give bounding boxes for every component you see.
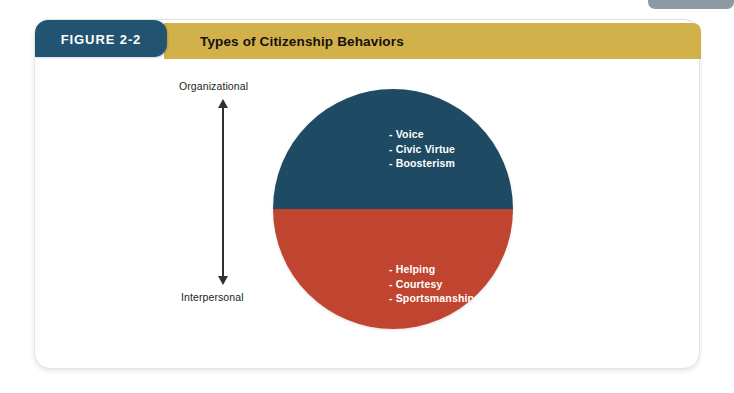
figure-header: Types of Citizenship Behaviors FIGURE 2-… bbox=[35, 20, 699, 60]
figure-title-banner: Types of Citizenship Behaviors bbox=[164, 23, 701, 59]
figure-number-label: FIGURE 2-2 bbox=[35, 31, 167, 46]
axis-label-organizational: Organizational bbox=[179, 80, 248, 92]
figure-card: Types of Citizenship Behaviors FIGURE 2-… bbox=[34, 19, 700, 369]
interpersonal-behaviors-list: - Helping - Courtesy - Sportsmanship bbox=[389, 262, 474, 306]
figure-title: Types of Citizenship Behaviors bbox=[200, 34, 404, 49]
organizational-interpersonal-axis bbox=[222, 99, 224, 285]
axis-line bbox=[222, 106, 224, 278]
figure-body: Organizational Interpersonal - Voice - C… bbox=[35, 60, 699, 368]
list-item: - Voice bbox=[389, 127, 455, 142]
arrow-down-icon bbox=[218, 276, 228, 285]
citizenship-behaviors-circle: - Voice - Civic Virtue - Boosterism - He… bbox=[273, 89, 513, 329]
axis-label-interpersonal: Interpersonal bbox=[181, 291, 244, 303]
figure-number-tab: FIGURE 2-2 bbox=[35, 20, 167, 57]
list-item: - Boosterism bbox=[389, 156, 455, 171]
list-item: - Sportsmanship bbox=[389, 291, 474, 306]
list-item: - Civic Virtue bbox=[389, 142, 455, 157]
list-item: - Helping bbox=[389, 262, 474, 277]
page-background: Types of Citizenship Behaviors FIGURE 2-… bbox=[0, 0, 734, 393]
organizational-behaviors-list: - Voice - Civic Virtue - Boosterism bbox=[389, 127, 455, 171]
list-item: - Courtesy bbox=[389, 277, 474, 292]
page-edge-bar bbox=[648, 0, 734, 9]
